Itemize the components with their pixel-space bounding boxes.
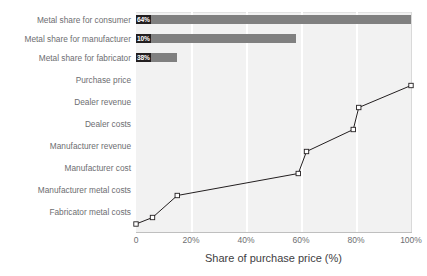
x-tick-label: 100% <box>381 234 427 246</box>
data-point-marker <box>304 149 308 153</box>
chart-figure: Metal share for consumer Metal share for… <box>0 0 427 276</box>
x-axis-ticks: 0 20% 40% 60% 80% 100% <box>0 234 427 248</box>
x-tick-label: 0 <box>106 234 166 246</box>
x-tick-label: 40% <box>216 234 276 246</box>
x-axis-line <box>136 232 412 233</box>
category-axis-labels: Metal share for consumer Metal share for… <box>0 12 131 232</box>
data-point-marker <box>351 127 355 131</box>
category-label: Purchase price <box>0 75 131 85</box>
x-axis-title: Share of purchase price (%) <box>0 252 427 264</box>
data-point-marker <box>409 83 413 87</box>
x-tick-label: 20% <box>161 234 221 246</box>
category-label: Dealer revenue <box>0 97 131 107</box>
category-label: Manufacturer metal costs <box>0 185 131 195</box>
category-label: Metal share for consumer <box>0 15 131 25</box>
category-label: Dealer costs <box>0 119 131 129</box>
category-label: Fabricator metal costs <box>0 207 131 217</box>
category-label: Manufacturer revenue <box>0 141 131 151</box>
x-tick-label: 60% <box>271 234 331 246</box>
data-point-marker <box>134 222 138 226</box>
category-label: Metal share for fabricator <box>0 53 131 63</box>
series-markers <box>134 83 413 226</box>
category-label: Metal share for manufacturer <box>0 34 131 44</box>
data-point-marker <box>150 215 154 219</box>
category-label: Manufacturer cost <box>0 163 131 173</box>
series-polyline <box>136 86 411 225</box>
x-tick-label: 80% <box>326 234 386 246</box>
data-point-marker <box>357 105 361 109</box>
data-point-marker <box>296 171 300 175</box>
line-series <box>136 12 411 232</box>
data-point-marker <box>175 193 179 197</box>
